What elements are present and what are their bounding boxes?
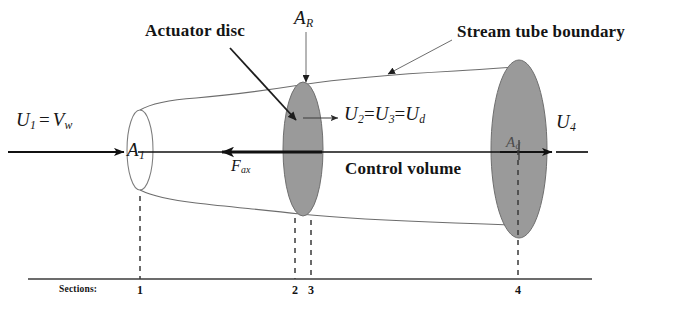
wind-velocity-subscript: w [64, 119, 72, 132]
sections-caption: Sections: [59, 285, 97, 295]
disc-velocity-label: U2=U3=Ud [344, 104, 425, 125]
actuator-disc-diagram: Actuator disc Stream tube boundary Contr… [0, 0, 700, 318]
section-mark-2: 2 [292, 284, 298, 296]
stream-tube-lower-boundary [140, 190, 528, 226]
section-dashed-lines [140, 150, 518, 279]
axial-force-label: Fax [231, 158, 250, 175]
section-mark-1: 1 [137, 284, 143, 296]
section-mark-3: 3 [308, 284, 314, 296]
disc-velocity-u2-symbol: U [344, 103, 358, 124]
area-downstream-subscript: d [515, 141, 520, 151]
disc-velocity-equals-1: = [364, 103, 375, 124]
disc-velocity-ud-subscript: d [419, 113, 425, 126]
stream-tube-boundary-label: Stream tube boundary [457, 23, 625, 40]
area-rotor-label: AR [294, 8, 313, 29]
wind-velocity-symbol: V [53, 109, 65, 130]
area-downstream-symbol: A [506, 134, 515, 150]
axial-force-subscript: ax [241, 164, 251, 175]
inlet-velocity-subscript: 1 [30, 119, 36, 132]
area-downstream-label: Ad [506, 135, 520, 151]
area-inlet-subscript: 1 [139, 149, 145, 162]
inlet-velocity-symbol: U [16, 109, 30, 130]
section-mark-4: 4 [515, 284, 521, 296]
area-inlet-label: A1 [127, 140, 145, 161]
stream-tube-upper-boundary [140, 66, 528, 110]
disc-velocity-u3-symbol: U [375, 103, 389, 124]
area-rotor-subscript: R [306, 17, 313, 30]
stream-tube-boundary-leader [388, 40, 452, 74]
area-inlet-symbol: A [127, 139, 139, 160]
control-volume-label: Control volume [345, 160, 461, 177]
actuator-disc-label: Actuator disc [145, 22, 245, 39]
inlet-velocity-label: U1=Vw [16, 110, 72, 131]
area-rotor-symbol: A [294, 7, 306, 28]
actuator-disc-ellipse [283, 82, 323, 216]
axial-force-symbol: F [231, 157, 241, 174]
exit-velocity-label: U4 [556, 112, 576, 133]
disc-velocity-ud-symbol: U [405, 103, 419, 124]
disc-velocity-equals-2: = [395, 103, 406, 124]
inlet-velocity-equals: = [36, 109, 53, 130]
exit-velocity-symbol: U [556, 111, 570, 132]
exit-velocity-subscript: 4 [570, 121, 576, 134]
actuator-disc-leader [230, 48, 296, 120]
